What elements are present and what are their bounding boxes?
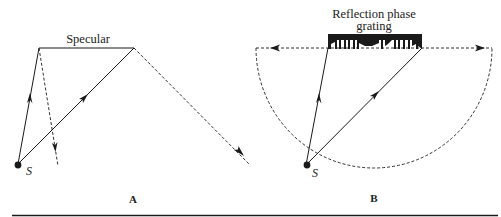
source-point-a <box>15 162 22 169</box>
panel-b: Reflection phase grating S B <box>256 7 492 204</box>
diffraction-semicircle <box>256 48 492 168</box>
arrowhead-icon <box>234 146 244 156</box>
grating-label-line2: grating <box>356 19 392 33</box>
arrowhead-icon <box>316 93 322 104</box>
phase-grating <box>328 34 422 49</box>
incident-ray-right-b <box>306 48 422 165</box>
diagram-canvas: Specular S A Reflection phase grating <box>0 0 501 217</box>
arrowhead-icon <box>27 93 33 104</box>
specular-label: Specular <box>66 32 111 46</box>
incident-ray-left-b <box>306 48 328 165</box>
source-label-a: S <box>26 164 32 178</box>
reflected-ray-right <box>134 48 250 165</box>
panel-a-label: A <box>129 193 137 205</box>
panel-b-label: B <box>370 192 378 204</box>
source-point-b <box>304 162 311 169</box>
source-label-b: S <box>312 166 318 180</box>
panel-a: Specular S A <box>15 32 250 205</box>
